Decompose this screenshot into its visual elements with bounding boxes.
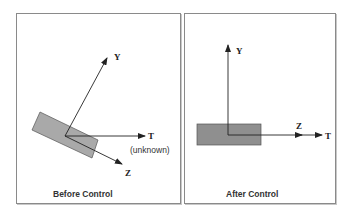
after-diagram: Y Z T [197, 45, 331, 145]
before-t-label: T [148, 131, 154, 141]
before-body-rectangle [32, 112, 98, 158]
after-body-rectangle [197, 124, 261, 145]
before-y-label: Y [114, 52, 121, 62]
after-z-label: Z [296, 121, 302, 131]
before-t-unknown-note: (unknown) [130, 145, 170, 155]
after-control-caption: After Control [226, 189, 278, 199]
before-diagram: Y T (unknown) Z [32, 52, 170, 178]
after-y-label: Y [236, 46, 243, 56]
before-z-label: Z [125, 168, 131, 178]
before-y-axis-arrow [65, 58, 107, 136]
after-t-label: T [325, 131, 331, 141]
before-control-caption: Before Control [53, 189, 113, 199]
diagram-canvas: Y T (unknown) Z Y Z T [0, 0, 352, 212]
